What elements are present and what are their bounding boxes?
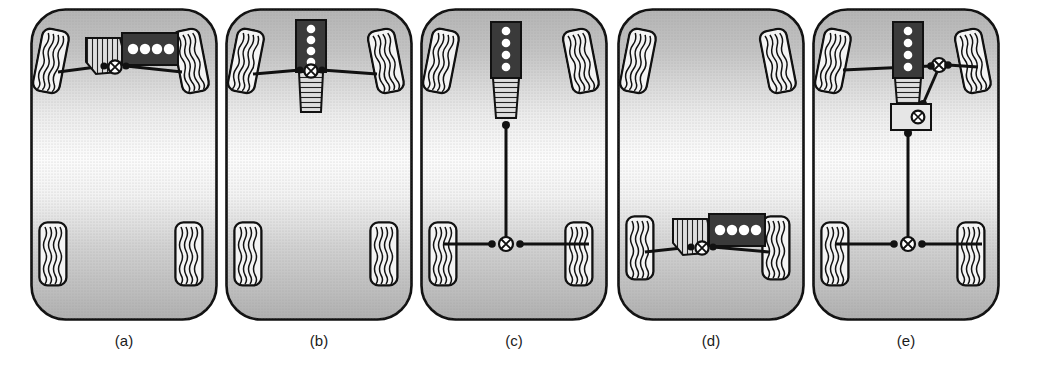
caption-d: (d) <box>617 332 805 349</box>
drivetrain-layout-figure: (a) (b) (c) (d) (e) <box>0 0 1039 371</box>
driveshaft-front-joint-c <box>502 121 510 129</box>
rear-right-tire-b <box>370 222 397 285</box>
caption-c: (c) <box>420 332 608 349</box>
rear-joint-left-e <box>890 240 898 248</box>
cv-joint-right-c <box>516 240 524 248</box>
rear-differential-c <box>499 237 513 251</box>
caption-b: (b) <box>225 332 413 349</box>
engine-block-e <box>893 22 923 78</box>
cv-joint-right-b <box>318 66 325 73</box>
caption-a: (a) <box>30 332 218 349</box>
transfer-case-e <box>891 104 931 130</box>
figure-canvas <box>0 0 1039 371</box>
engine-block-d <box>709 214 765 246</box>
cv-joint-left-d <box>687 243 694 250</box>
panel-d <box>619 10 804 320</box>
panel-e <box>814 10 999 320</box>
cv-joint-left-c <box>488 240 496 248</box>
rear-left-tire-a <box>39 222 66 285</box>
rear-joint-right-e <box>918 240 926 248</box>
rear-left-tire-c <box>429 222 456 285</box>
front-differential-b <box>304 64 317 77</box>
gearbox-c <box>493 78 519 118</box>
rear-differential-e <box>901 237 915 251</box>
cv-joint-left-b <box>296 66 303 73</box>
cv-joint-left-e <box>927 62 935 70</box>
rear-left-tire-b <box>234 222 261 285</box>
rear-right-tire-e <box>957 222 984 285</box>
engine-block-a <box>122 33 178 65</box>
panel-c <box>422 10 607 320</box>
rear-left-tire-e <box>821 222 848 285</box>
cv-joint-right-e <box>944 61 952 69</box>
cv-joint-left-a <box>100 62 107 69</box>
rear-right-tire-a <box>175 222 202 285</box>
panel-b <box>227 10 412 320</box>
caption-e: (e) <box>812 332 1000 349</box>
rear-right-tire-d <box>762 216 789 279</box>
cv-joint-right-a <box>122 62 129 69</box>
rear-right-tire-c <box>565 222 592 285</box>
cv-joint-right-d <box>709 243 716 250</box>
front-differential-a <box>108 60 121 73</box>
driveshaft-front-joint-e <box>904 129 912 137</box>
engine-block-c <box>491 22 521 78</box>
front-axle-right-e <box>948 65 978 67</box>
rear-differential-d <box>695 241 708 254</box>
rear-left-tire-d <box>626 216 653 279</box>
panel-a <box>32 10 217 320</box>
